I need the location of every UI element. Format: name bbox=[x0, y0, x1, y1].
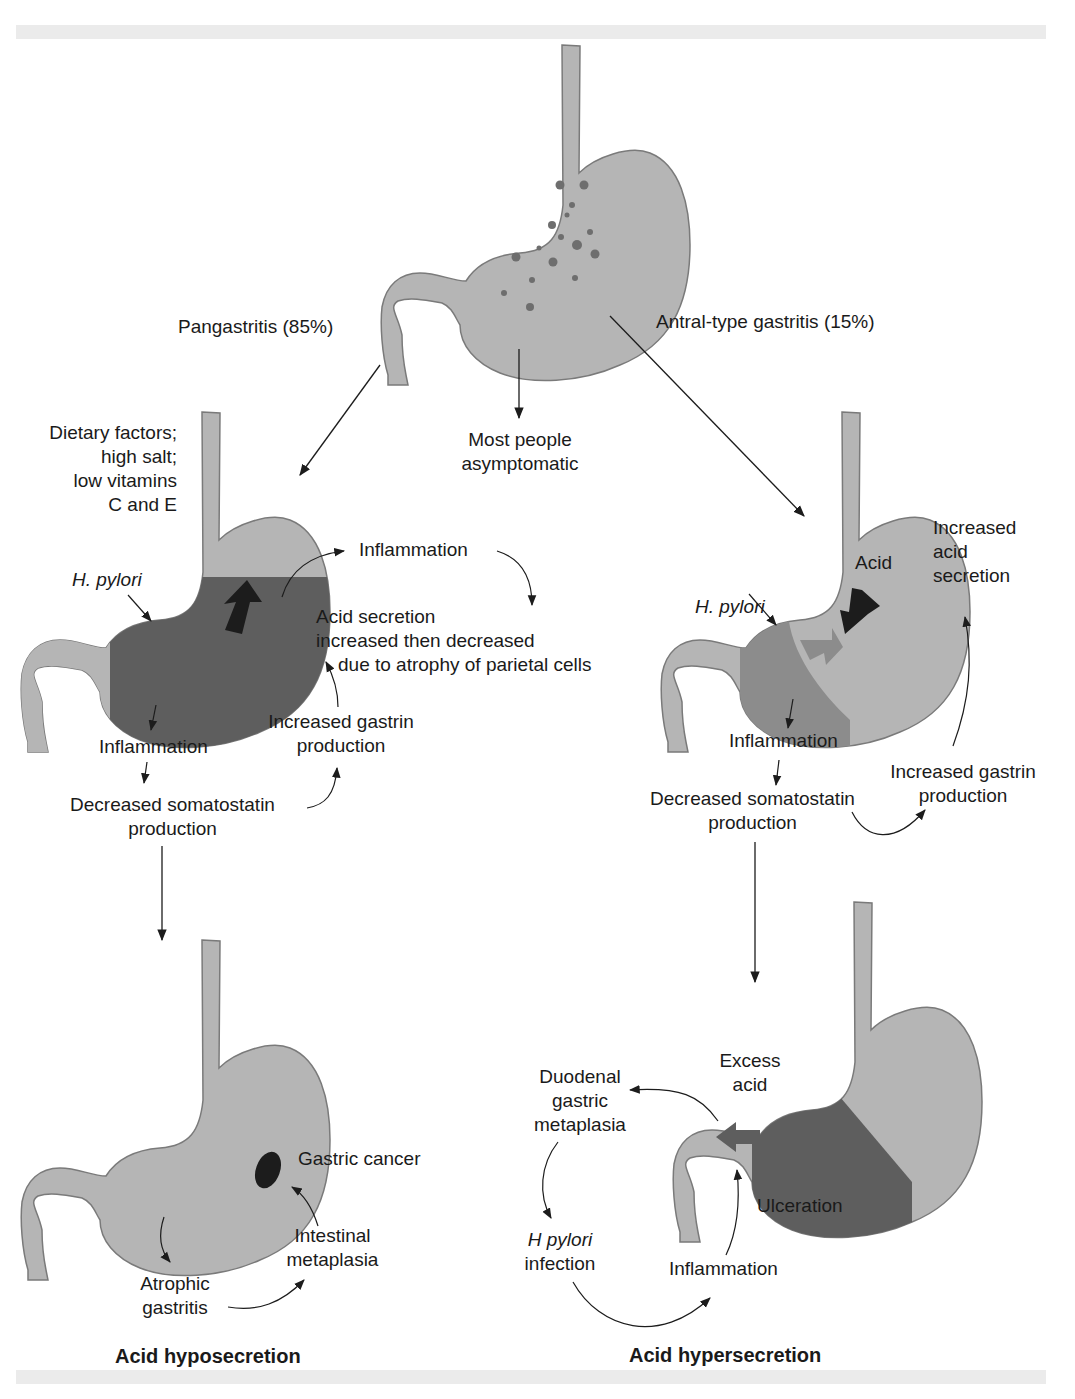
label-inflammation-left: Inflammation bbox=[99, 735, 208, 759]
stomach-top bbox=[381, 45, 690, 385]
label-antral: Antral-type gastritis (15%) bbox=[656, 310, 875, 334]
stomach-antral bbox=[661, 412, 970, 757]
label-intestinal-metaplasia: Intestinal metaplasia bbox=[275, 1224, 390, 1272]
label-inflammation-left-top: Inflammation bbox=[359, 538, 468, 562]
title-acid-hypersecretion: Acid hypersecretion bbox=[629, 1343, 821, 1367]
label-gastric-cancer: Gastric cancer bbox=[298, 1147, 420, 1171]
arrow-to-antral bbox=[610, 316, 804, 516]
label-inflammation-right: Inflammation bbox=[729, 729, 838, 753]
label-pangastritis: Pangastritis (85%) bbox=[178, 315, 333, 339]
label-atrophic-gastritis: Atrophic gastritis bbox=[125, 1272, 225, 1320]
label-gastrin-right: Increased gastrin production bbox=[878, 760, 1048, 808]
label-somatostatin-right: Decreased somatostatin production bbox=[630, 787, 875, 835]
label-somatostatin-left: Decreased somatostatin production bbox=[50, 793, 295, 841]
label-h-pylori-right: H. pylori bbox=[695, 595, 765, 619]
label-inflammation-bottom: Inflammation bbox=[669, 1257, 778, 1281]
arrow-to-pangastritis bbox=[300, 365, 380, 475]
label-acid-secretion: Acid secretion increased then decreased … bbox=[316, 605, 592, 677]
label-acid: Acid bbox=[855, 551, 892, 575]
label-duodenal-metaplasia: Duodenal gastric metaplasia bbox=[520, 1065, 640, 1137]
diagram-artwork bbox=[0, 0, 1075, 1399]
label-asymptomatic: Most people asymptomatic bbox=[440, 428, 600, 476]
label-gastrin-left: Increased gastrin production bbox=[256, 710, 426, 758]
label-increased-acid-secretion: Increased acid secretion bbox=[933, 516, 1016, 588]
label-h-pylori-infection: H pylori infection bbox=[510, 1228, 610, 1276]
title-acid-hyposecretion: Acid hyposecretion bbox=[115, 1344, 301, 1368]
label-h-pylori-left: H. pylori bbox=[72, 568, 142, 592]
label-excess-acid: Excess acid bbox=[700, 1049, 800, 1097]
label-ulceration: Ulceration bbox=[757, 1194, 843, 1218]
label-dietary-factors: Dietary factors; high salt; low vitamins… bbox=[20, 421, 177, 517]
